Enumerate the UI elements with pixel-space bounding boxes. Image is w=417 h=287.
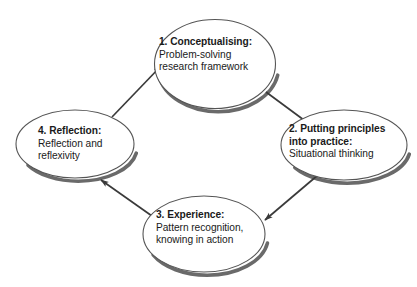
- arrow-practice-to-experience: [265, 175, 318, 220]
- node-ellipse-reflection[interactable]: [16, 110, 134, 178]
- cycle-diagram: 1. Conceptualising: Problem-solving rese…: [0, 0, 417, 287]
- node-ellipse-putting-principles-into-practice[interactable]: [281, 110, 407, 180]
- node-ellipse-experience[interactable]: [143, 196, 265, 272]
- arrow-reflection-to-conceptualising: [112, 66, 161, 117]
- arrow-experience-to-reflection: [101, 180, 152, 216]
- node-ellipse-conceptualising[interactable]: [155, 20, 276, 109]
- diagram-canvas: [0, 0, 417, 287]
- ellipse-bodies: [16, 20, 407, 273]
